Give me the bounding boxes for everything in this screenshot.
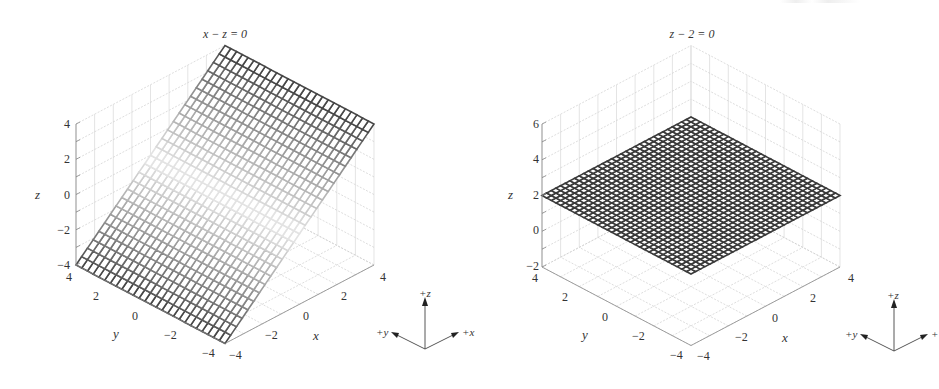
y-tick: 2 [93, 289, 99, 303]
x-tick: −4 [229, 348, 242, 362]
plot-x-minus-z: x − z = 0 z y x 4 2 0 −2 −4 4 2 0 −2 −4 … [34, 27, 474, 362]
surface-mesh [542, 117, 840, 274]
x-tick: −4 [697, 349, 710, 363]
figure-canvas: x − z = 0 z y x 4 2 0 −2 −4 4 2 0 −2 −4 … [0, 0, 939, 389]
triad-z-label: +z [887, 289, 899, 301]
y-tick: −2 [164, 328, 177, 342]
x-axis-label: x [781, 330, 788, 345]
x-tick: 4 [380, 270, 386, 284]
surface-mesh [76, 46, 374, 344]
y-tick: 2 [562, 290, 568, 304]
x-tick: 0 [772, 311, 778, 325]
x-axis-label: x [312, 328, 319, 343]
z-tick: 6 [533, 117, 539, 131]
y-tick: 0 [132, 309, 138, 323]
orientation-triad: +z +y +x [376, 287, 474, 349]
arrow-left-icon [391, 332, 399, 338]
y-tick: −2 [632, 329, 645, 343]
triad-y-label: +y [845, 328, 857, 340]
y-tick: 4 [532, 271, 538, 285]
cropped-text-artifact [780, 0, 860, 3]
triad-y-label: +y [376, 326, 388, 338]
z-tick: 2 [533, 188, 539, 202]
x-tick: −2 [735, 330, 748, 344]
x-tick: 0 [303, 309, 309, 323]
figure: x − z = 0 z y x 4 2 0 −2 −4 4 2 0 −2 −4 … [0, 0, 939, 389]
y-tick: −4 [670, 348, 683, 362]
x-tick: 2 [341, 289, 347, 303]
x-tick: 2 [810, 291, 816, 305]
z-tick: 4 [64, 117, 70, 131]
z-tick: 2 [64, 152, 70, 166]
triad-x-label: +x [462, 326, 474, 338]
x-tick: 4 [848, 271, 854, 285]
plot-title: x − z = 0 [202, 27, 247, 41]
plot-z-minus-2: z − 2 = 0 z y x 6 4 2 0 −2 4 2 0 −2 −4 −… [507, 27, 938, 363]
y-tick: 4 [66, 270, 72, 284]
orientation-triad: +z +y + [845, 289, 938, 351]
y-tick: 0 [602, 310, 608, 324]
z-tick: 4 [533, 152, 539, 166]
x-tick: −2 [265, 328, 278, 342]
z-axis-label: z [507, 187, 513, 202]
y-tick: −4 [202, 346, 215, 360]
plot-title: z − 2 = 0 [669, 27, 715, 41]
arrow-right-icon [451, 332, 459, 338]
z-tick: 0 [64, 188, 70, 202]
z-axis-label: z [34, 187, 40, 202]
z-tick: 0 [533, 223, 539, 237]
z-tick: −2 [57, 223, 70, 237]
triad-x-label: + [931, 328, 938, 340]
arrow-right-icon [920, 334, 928, 340]
triad-z-label: +z [419, 287, 431, 299]
arrow-left-icon [860, 334, 868, 340]
y-axis-label: y [111, 326, 119, 341]
y-axis-label: y [580, 327, 588, 342]
